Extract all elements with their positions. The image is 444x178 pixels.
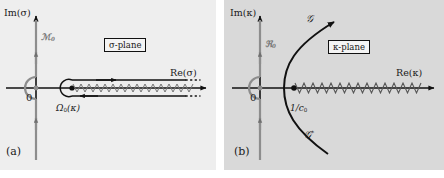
panel-b-graphics bbox=[224, 0, 444, 170]
axis-label-imag-b: Im(κ) bbox=[230, 8, 256, 18]
panel-a-graphics bbox=[0, 0, 216, 170]
panel-a: Im(σ) Re(σ) 0 ℳ0 σ-plane Ω0(κ) (a) bbox=[0, 0, 216, 170]
origin-dot-a bbox=[34, 86, 39, 91]
curve-G-upper bbox=[284, 22, 334, 88]
contour-label-K0: ℜ0 bbox=[265, 40, 276, 50]
plane-box-kappa: κ-plane bbox=[328, 40, 370, 54]
origin-label-a: 0 bbox=[26, 93, 32, 103]
origin-label-b: 0 bbox=[250, 93, 256, 103]
branch-point-label-b: 1/c0 bbox=[290, 104, 307, 114]
contour-M0 bbox=[25, 20, 36, 160]
contour-K0 bbox=[249, 20, 260, 160]
curve-label-G: 𝒢 bbox=[306, 14, 313, 24]
kappa-plane-svg bbox=[224, 0, 444, 170]
panel-id-b: (b) bbox=[234, 146, 250, 157]
axis-label-imag-a: Im(σ) bbox=[4, 8, 31, 18]
contour-label-omega0: Ω0(κ) bbox=[56, 104, 80, 114]
curve-G-lower bbox=[284, 88, 328, 154]
sigma-plane-svg bbox=[0, 0, 216, 170]
curve-label-G-star: 𝒢* bbox=[304, 130, 314, 140]
origin-dot-b bbox=[258, 86, 263, 91]
figure-root: Im(σ) Re(σ) 0 ℳ0 σ-plane Ω0(κ) (a) bbox=[0, 0, 444, 178]
panel-id-a: (a) bbox=[6, 146, 21, 157]
plane-box-sigma: σ-plane bbox=[104, 38, 146, 52]
panel-b: Im(κ) Re(κ) 0 ℜ0 κ-plane 1/c0 𝒢 𝒢* (b) bbox=[224, 0, 444, 170]
axis-label-real-a: Re(σ) bbox=[170, 68, 197, 78]
contour-label-M0: ℳ0 bbox=[41, 33, 55, 43]
axis-label-real-b: Re(κ) bbox=[396, 68, 422, 78]
